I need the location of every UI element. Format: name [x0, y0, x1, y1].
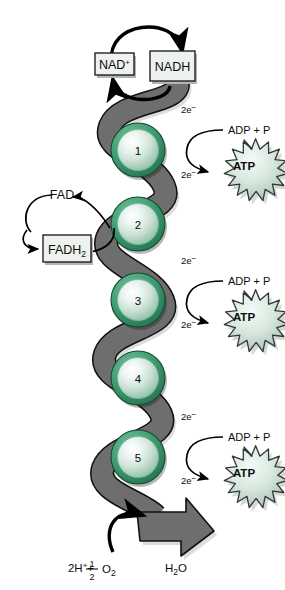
atp-site-2: ADP + P ATP [186, 275, 285, 356]
electron-label-6: 2e− [181, 474, 197, 487]
atp-label-3: ATP [233, 467, 255, 479]
atp-burst-1[interactable]: ATP [224, 139, 285, 205]
electron-label-1: 2e− [181, 103, 197, 116]
complex-1-number: 1 [135, 145, 141, 157]
electron-label-3: 2e− [181, 254, 197, 267]
adp-to-atp-arrow-1 [186, 130, 223, 172]
fadh2-label: FADH2 [48, 243, 86, 259]
complex-3-number: 3 [135, 295, 141, 307]
adp-label-3: ADP + P [228, 431, 270, 443]
fadh2-box[interactable]: FADH2 [43, 235, 93, 265]
complex-1[interactable]: 1 [111, 123, 167, 180]
electron-transport-chain-diagram: 1 2 3 4 5 NAD+ NADH [0, 0, 285, 590]
complex-4[interactable]: 4 [111, 351, 167, 408]
fad-to-fadh2-arrow [23, 230, 38, 249]
nad-oxidized-box[interactable]: NAD+ [95, 53, 136, 78]
complex-5-number: 5 [135, 452, 141, 464]
atp-label-2: ATP [233, 311, 255, 323]
water-product-label: H2O [165, 562, 187, 577]
atp-label-1: ATP [233, 160, 255, 172]
fraction-numerator: 1 [89, 559, 94, 569]
fad-to-fadh2-curve [26, 195, 52, 232]
adp-label-1: ADP + P [228, 124, 270, 136]
atp-site-1: ADP + P ATP [186, 124, 285, 205]
nadh-label: NADH [155, 60, 190, 74]
complex-2-number: 2 [135, 219, 141, 231]
complex-4-number: 4 [135, 373, 142, 385]
nadh-box[interactable]: NADH [150, 51, 197, 84]
electron-label-2: 2e− [181, 168, 197, 181]
fraction-denominator: 2 [89, 572, 94, 582]
adp-label-2: ADP + P [228, 275, 270, 287]
oxygen-label: O2 [102, 563, 116, 578]
diagram-canvas: 1 2 3 4 5 NAD+ NADH [0, 0, 285, 590]
atp-site-3: ADP + P ATP [186, 431, 285, 512]
fad-label: FAD [50, 188, 74, 202]
electron-label-5: 2e− [181, 410, 197, 423]
atp-burst-3[interactable]: ATP [224, 446, 285, 512]
atp-burst-2[interactable]: ATP [224, 290, 285, 356]
electron-label-4: 2e− [181, 318, 197, 331]
